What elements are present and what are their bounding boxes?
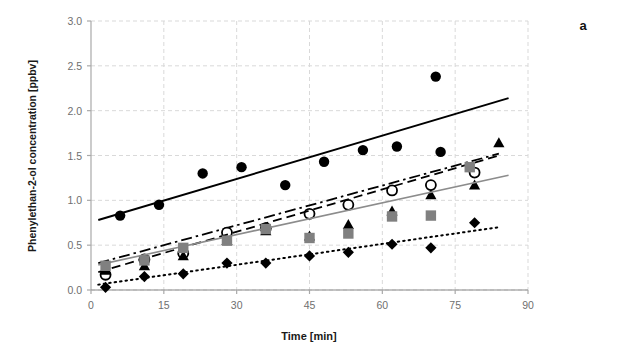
x-tick-label: 30 bbox=[231, 299, 243, 311]
data-point-filled-circle bbox=[435, 147, 445, 157]
data-point-filled-circle bbox=[392, 141, 402, 151]
data-point-filled-square bbox=[100, 261, 110, 271]
data-point-filled-square bbox=[139, 255, 149, 265]
x-tick-label: 60 bbox=[376, 299, 388, 311]
data-point-filled-square bbox=[178, 243, 188, 253]
data-point-filled-square bbox=[343, 228, 353, 238]
data-point-filled-square bbox=[387, 211, 397, 221]
data-point-filled-circle bbox=[197, 168, 207, 178]
data-point-filled-circle bbox=[236, 162, 246, 172]
x-tick-label: 45 bbox=[304, 299, 316, 311]
x-tick-label: 90 bbox=[522, 299, 534, 311]
y-tick-label: 1.5 bbox=[67, 150, 82, 162]
figure-panel: 0.00.51.01.52.02.53.0 0153045607590 Phen… bbox=[0, 0, 617, 363]
data-point-filled-square bbox=[426, 210, 436, 220]
data-point-filled-circle bbox=[358, 145, 368, 155]
y-tick-label: 1.0 bbox=[67, 194, 82, 206]
y-tick-label: 2.0 bbox=[67, 105, 82, 117]
x-axis-label: Time [min] bbox=[281, 330, 337, 342]
y-axis-label: Phenylethan-2-ol concentration [ppbv] bbox=[26, 60, 38, 252]
panel-letter-label: a bbox=[579, 18, 587, 33]
y-tick-label: 2.5 bbox=[67, 60, 82, 72]
data-point-filled-square bbox=[261, 224, 271, 234]
chart-canvas: 0.00.51.01.52.02.53.0 0153045607590 Phen… bbox=[0, 0, 617, 363]
data-point-filled-square bbox=[465, 162, 475, 172]
data-point-filled-circle bbox=[154, 200, 164, 210]
y-tick-label: 0.0 bbox=[67, 284, 82, 296]
y-tick-label: 3.0 bbox=[67, 15, 82, 27]
data-point-open-circle bbox=[343, 200, 353, 210]
data-point-filled-circle bbox=[431, 71, 441, 81]
data-point-filled-circle bbox=[319, 157, 329, 167]
data-point-filled-circle bbox=[115, 210, 125, 220]
y-tick-label: 0.5 bbox=[67, 239, 82, 251]
x-tick-label: 0 bbox=[88, 299, 94, 311]
data-point-filled-square bbox=[222, 235, 232, 245]
data-point-filled-square bbox=[304, 233, 314, 243]
x-tick-label: 75 bbox=[449, 299, 461, 311]
x-tick-label: 15 bbox=[158, 299, 170, 311]
data-point-filled-circle bbox=[280, 180, 290, 190]
data-point-open-circle bbox=[426, 180, 436, 190]
